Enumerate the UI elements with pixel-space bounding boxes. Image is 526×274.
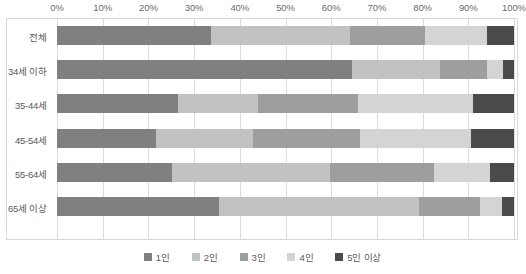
- legend-item[interactable]: 4인: [287, 250, 313, 264]
- x-tick-label: 0%: [50, 2, 64, 13]
- bar-segment: [440, 60, 487, 79]
- bar-segment: [350, 26, 425, 45]
- legend-swatch: [144, 253, 152, 261]
- legend-item[interactable]: 5인 이상: [335, 250, 381, 264]
- bar-segment: [358, 94, 473, 113]
- y-axis-category-label: 55-64세: [15, 167, 47, 181]
- y-axis-category-label: 65세 이상: [8, 201, 47, 215]
- bar-segment: [473, 94, 514, 113]
- bar-segment: [330, 163, 434, 182]
- x-tick-label: 70%: [368, 2, 387, 13]
- bar-row: [57, 197, 514, 216]
- bar-segment: [487, 26, 514, 45]
- bar-segment: [434, 163, 490, 182]
- bar-segment: [253, 129, 360, 148]
- bar-segment: [471, 129, 514, 148]
- bar-segment: [490, 163, 514, 182]
- bar-series-container: [57, 19, 514, 239]
- x-tick-label: 90%: [459, 2, 478, 13]
- x-tick-label: 60%: [322, 2, 341, 13]
- bar-segment: [352, 60, 440, 79]
- bar-segment: [57, 163, 172, 182]
- bar-segment: [57, 60, 352, 79]
- x-tick-label: 40%: [230, 2, 249, 13]
- legend-item[interactable]: 2인: [192, 250, 218, 264]
- bar-row: [57, 60, 514, 79]
- y-axis-category-label: 35-44세: [15, 98, 47, 112]
- legend-swatch: [287, 253, 295, 261]
- bar-segment: [360, 129, 471, 148]
- bar-segment: [57, 26, 211, 45]
- bar-segment: [258, 94, 358, 113]
- bar-segment: [172, 163, 330, 182]
- legend-item[interactable]: 3인: [240, 250, 266, 264]
- x-tick-label: 20%: [139, 2, 158, 13]
- y-axis-category-label: 45-54세: [15, 133, 47, 147]
- bar-segment: [503, 60, 514, 79]
- bar-segment: [487, 60, 503, 79]
- y-axis-category-labels: 전체34세 이하35-44세45-54세55-64세65세 이상: [0, 19, 55, 239]
- bar-row: [57, 129, 514, 148]
- x-tick-label: 10%: [93, 2, 112, 13]
- y-axis-category-label: 34세 이하: [8, 64, 47, 78]
- x-tick-label: 100%: [502, 2, 526, 13]
- legend-swatch: [335, 253, 343, 261]
- legend-label: 4인: [299, 250, 313, 264]
- legend-swatch: [192, 253, 200, 261]
- x-tick-label: 80%: [413, 2, 432, 13]
- bar-segment: [57, 129, 156, 148]
- x-axis-tick-labels: 0%10%20%30%40%50%60%70%80%90%100%: [0, 2, 525, 18]
- bar-row: [57, 26, 514, 45]
- legend-swatch: [240, 253, 248, 261]
- bar-segment: [211, 26, 350, 45]
- bar-segment: [57, 197, 219, 216]
- x-tick-label: 30%: [185, 2, 204, 13]
- bar-segment: [178, 94, 258, 113]
- bar-segment: [57, 94, 178, 113]
- bar-segment: [156, 129, 253, 148]
- bar-row: [57, 94, 514, 113]
- bar-segment: [502, 197, 514, 216]
- y-axis-category-label: 전체: [29, 30, 47, 44]
- bar-segment: [480, 197, 502, 216]
- bar-segment: [419, 197, 480, 216]
- x-tick-label: 50%: [276, 2, 295, 13]
- bar-segment: [219, 197, 419, 216]
- legend-label: 1인: [156, 250, 170, 264]
- legend-label: 2인: [204, 250, 218, 264]
- chart-legend: 1인2인3인4인5인 이상: [0, 249, 525, 265]
- legend-label: 3인: [252, 250, 266, 264]
- bar-segment: [425, 26, 487, 45]
- legend-item[interactable]: 1인: [144, 250, 170, 264]
- legend-label: 5인 이상: [347, 250, 381, 264]
- bar-row: [57, 163, 514, 182]
